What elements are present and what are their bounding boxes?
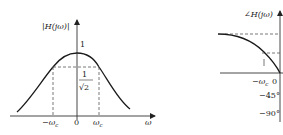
tick-omega-c: ωc (93, 118, 103, 128)
phase-tick-neg-omega-c: −ωc (252, 77, 268, 87)
magnitude-y-label: |H(jω)| (42, 22, 70, 31)
magnitude-x-label: ω (145, 118, 152, 127)
phase-tick-zero: 0 (272, 77, 277, 86)
magnitude-plot: |H(jω)| 1 1 √2 −ωc 0 ωc ω (10, 20, 155, 128)
cutoff-label-numerator: 1 (82, 70, 87, 79)
phase-tick-neg-45: −45° (259, 91, 280, 100)
cutoff-label-denominator: √2 (79, 83, 89, 92)
peak-label: 1 (80, 40, 85, 49)
phase-y-label: ∠H(jω) (244, 10, 273, 19)
filter-response-diagram: |H(jω)| 1 1 √2 −ωc 0 ωc ω ∠H(jω) −ωc 0 −… (0, 0, 283, 135)
phase-curve (218, 34, 280, 73)
tick-neg-omega-c: −ωc (42, 118, 58, 128)
phase-plot: ∠H(jω) −ωc 0 −45° −90° (218, 10, 283, 122)
tick-zero: 0 (74, 118, 79, 127)
magnitude-curve (17, 53, 130, 112)
phase-tick-neg-90: −90° (259, 109, 280, 118)
